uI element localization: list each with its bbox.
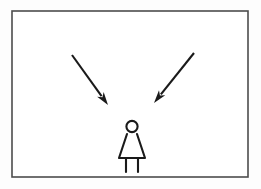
frame-border [12,11,248,177]
illustration-canvas: Two arrows pointing down toward a standi… [0,0,261,189]
scene-svg [0,0,261,189]
